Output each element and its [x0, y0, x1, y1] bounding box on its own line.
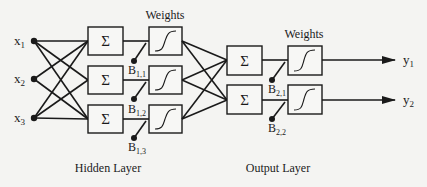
- sigma-icon: Σ: [101, 33, 110, 49]
- hidden-weights-label: Weights: [145, 8, 184, 22]
- bias-label-b11: B1,1: [128, 63, 146, 79]
- hidden-sum-3: Σ: [88, 105, 123, 133]
- output-sigmoid-2: [288, 85, 322, 114]
- sigma-icon: Σ: [101, 72, 110, 88]
- svg-text:x2: x2: [14, 71, 25, 88]
- hidden-output-connections: [182, 41, 227, 119]
- output-sum-2: Σ: [227, 85, 262, 114]
- sigma-icon: Σ: [240, 53, 249, 69]
- input-node-x3: x3: [14, 110, 37, 127]
- output-sigmoid-1: [288, 46, 322, 75]
- hidden-biases: [131, 43, 146, 141]
- output-sum-1: Σ: [227, 46, 262, 75]
- hidden-sigmoid-3: [149, 105, 182, 133]
- output-label-y2: y2: [403, 92, 414, 109]
- node-dot-icon: [31, 38, 37, 44]
- bias-label-b22: B2,2: [268, 121, 286, 137]
- input-node-x1: x1: [14, 33, 37, 50]
- svg-text:x3: x3: [14, 110, 26, 127]
- sigma-icon: Σ: [101, 111, 110, 127]
- output-weights-label: Weights: [284, 27, 323, 41]
- bias-label-b13: B1,3: [128, 140, 146, 156]
- hidden-sigmoid-1: [149, 27, 182, 55]
- input-node-x2: x2: [14, 71, 37, 88]
- output-label-y1: y1: [403, 52, 414, 69]
- neural-network-diagram: x1 x2 x3 Σ Σ Σ B1,1 B1,2 B1,3 Weights: [0, 0, 427, 187]
- node-dot-icon: [31, 76, 37, 82]
- bias-label-b21: B2,1: [268, 82, 286, 98]
- hidden-sum-2: Σ: [88, 66, 123, 94]
- sigma-icon: Σ: [240, 92, 249, 108]
- output-layer-caption: Output Layer: [246, 161, 310, 175]
- bias-label-b12: B1,2: [128, 102, 146, 118]
- input-connections: [34, 41, 88, 119]
- svg-text:x1: x1: [14, 33, 25, 50]
- hidden-layer-caption: Hidden Layer: [75, 161, 141, 175]
- hidden-sigmoid-2: [149, 66, 182, 94]
- node-dot-icon: [31, 115, 37, 121]
- hidden-sum-1: Σ: [88, 27, 123, 55]
